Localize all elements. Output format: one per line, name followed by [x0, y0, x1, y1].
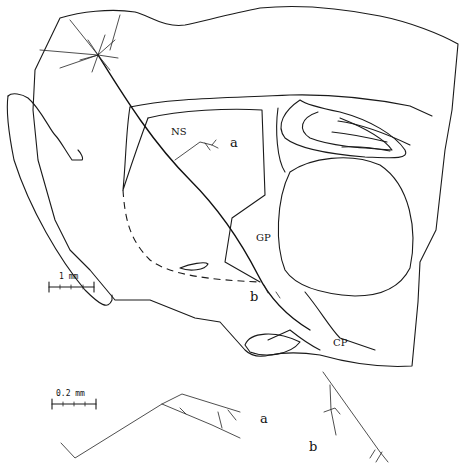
label-ns: NS: [171, 127, 187, 137]
marker-a-top: a: [230, 136, 238, 149]
scale-label-0-2mm: 0.2 mm: [56, 390, 85, 398]
striatum-left-outline: [123, 107, 148, 190]
figure-canvas: [0, 0, 475, 470]
main-axon: [98, 55, 310, 330]
label-gp: GP: [256, 233, 271, 243]
thalamus-outline: [278, 158, 413, 296]
scale-bar-1mm: [49, 282, 94, 292]
marker-b-inset: b: [309, 440, 317, 453]
lateral-lobe-inner: [8, 94, 83, 160]
scale-bar-0-2mm: [52, 399, 96, 409]
scale-label-1mm: 1 mm: [59, 273, 78, 281]
marker-b-top: b: [250, 290, 258, 303]
ns-collateral: [175, 140, 218, 160]
dashed-boundary: [123, 190, 260, 282]
marker-a-inset: a: [260, 412, 268, 425]
label-cp: CP: [333, 338, 347, 348]
inset-b-axon: [323, 372, 388, 462]
cortex-outline: [33, 6, 458, 366]
ventral-ellipse: [245, 334, 300, 355]
small-vessel: [180, 263, 208, 270]
hippocampus-inner: [302, 112, 392, 150]
soma-dendrites: [40, 15, 120, 72]
